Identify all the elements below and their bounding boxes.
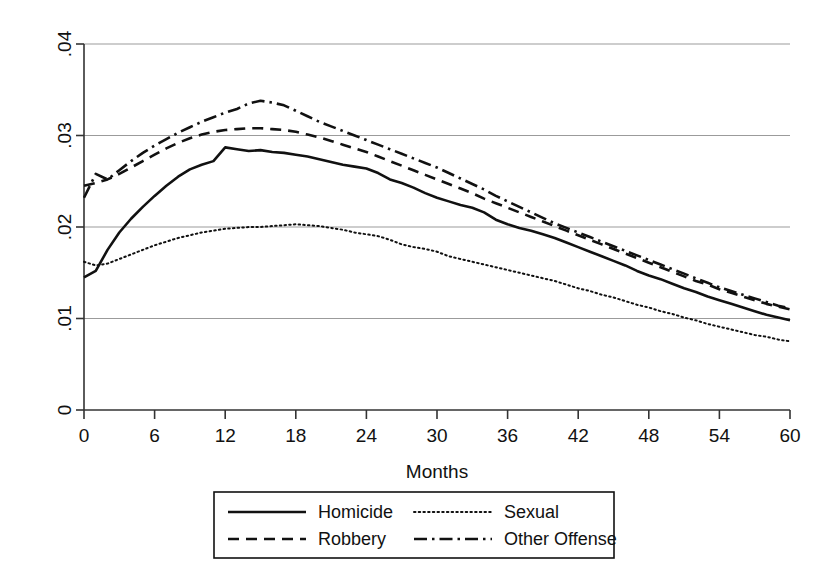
y-tick-label: .04 xyxy=(54,30,75,57)
chart-svg: 0.01.02.03.04 06121824303642485460 Month… xyxy=(0,0,816,572)
y-tick-label: .02 xyxy=(54,214,75,240)
y-axis-ticks: 0.01.02.03.04 xyxy=(54,30,85,415)
data-series-group xyxy=(84,101,790,342)
y-tick-label: .01 xyxy=(54,305,75,331)
y-tick-label: 0 xyxy=(54,405,75,416)
x-axis-title: Months xyxy=(406,461,468,482)
series-line-robbery xyxy=(84,128,790,309)
legend-label: Sexual xyxy=(504,502,559,522)
x-tick-label: 24 xyxy=(356,425,378,446)
x-tick-label: 12 xyxy=(215,425,236,446)
y-tick-label: .03 xyxy=(54,122,75,148)
x-tick-label: 60 xyxy=(779,425,800,446)
x-axis-ticks: 06121824303642485460 xyxy=(79,410,801,446)
x-tick-label: 54 xyxy=(709,425,731,446)
legend-label: Homicide xyxy=(318,502,393,522)
x-tick-label: 48 xyxy=(638,425,659,446)
series-line-homicide xyxy=(84,147,790,320)
x-tick-label: 30 xyxy=(426,425,447,446)
x-tick-label: 42 xyxy=(568,425,589,446)
x-tick-label: 0 xyxy=(79,425,90,446)
chart-figure: 0.01.02.03.04 06121824303642485460 Month… xyxy=(0,0,816,572)
legend-label: Robbery xyxy=(318,529,386,549)
x-tick-label: 36 xyxy=(497,425,518,446)
x-tick-label: 6 xyxy=(149,425,160,446)
legend-label: Other Offense xyxy=(504,529,617,549)
chart-legend: HomicideSexualRobberyOther Offense xyxy=(214,492,617,558)
series-line-sexual xyxy=(84,224,790,341)
x-tick-label: 18 xyxy=(285,425,306,446)
